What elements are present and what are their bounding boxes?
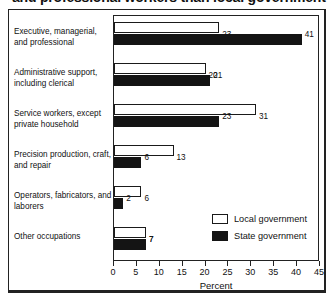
bar-local-government	[114, 63, 206, 74]
bar-group: 62	[114, 186, 320, 210]
x-axis-tick-label: 5	[133, 267, 138, 277]
x-axis-tick	[319, 261, 320, 266]
x-axis-tick-label: 30	[245, 267, 255, 277]
legend-swatch-local	[212, 214, 228, 224]
x-axis-title: Percent	[113, 280, 319, 291]
legend: Local governmentState government	[212, 211, 316, 245]
legend-label: Local government	[234, 214, 307, 224]
bar-state-government	[114, 75, 210, 86]
bar-local-government	[114, 227, 146, 238]
bar-value-label: 41	[305, 30, 314, 39]
bar-value-label: 23	[222, 112, 231, 121]
x-axis-tick	[250, 261, 251, 266]
bar-value-label: 2	[126, 194, 131, 203]
x-axis-tick-label: 10	[154, 267, 164, 277]
category-label: Service workers, except private househol…	[14, 109, 112, 130]
bar-group: 3123	[114, 104, 320, 128]
x-axis-tick-label: 15	[177, 267, 187, 277]
x-axis-tick	[273, 261, 274, 266]
legend-swatch-state	[212, 231, 228, 241]
x-axis-tick	[159, 261, 160, 266]
category-label: Precision production, craft, and repair	[14, 150, 112, 171]
x-axis-tick-label: 0	[110, 267, 115, 277]
x-axis-tick-label: 25	[222, 267, 232, 277]
category-label: Other occupations	[14, 232, 112, 243]
x-axis-tick-label: 40	[291, 267, 301, 277]
category-label-column: Executive, managerial, and professionalA…	[14, 15, 112, 261]
bar-value-label: 13	[177, 153, 186, 162]
bar-local-government	[114, 22, 219, 33]
bar-group: 2341	[114, 22, 320, 46]
x-axis-tick-label: 20	[200, 267, 210, 277]
category-label: Administrative support, including cleric…	[14, 68, 112, 89]
bar-value-label: 6	[144, 153, 149, 162]
bar-state-government	[114, 239, 146, 250]
bar-value-label: 21	[213, 71, 222, 80]
chart-area: Executive, managerial, and professionalA…	[0, 0, 334, 303]
legend-item: State government	[212, 228, 316, 243]
x-axis-tick	[182, 261, 183, 266]
x-axis-tick	[296, 261, 297, 266]
x-axis-tick	[227, 261, 228, 266]
bar-group: 136	[114, 145, 320, 169]
x-axis: Percent 051015202530354045	[113, 261, 319, 301]
x-axis-tick	[205, 261, 206, 266]
bar-value-label: 31	[259, 112, 268, 121]
bar-local-government	[114, 104, 256, 115]
bar-value-label: 6	[144, 194, 149, 203]
bar-state-government	[114, 198, 123, 209]
legend-item: Local government	[212, 211, 316, 226]
category-label: Executive, managerial, and professional	[14, 27, 112, 48]
bar-state-government	[114, 34, 302, 45]
x-axis-tick	[113, 261, 114, 266]
bar-value-label: 7	[149, 235, 154, 244]
legend-label: State government	[234, 231, 307, 241]
x-axis-tick-label: 45	[314, 267, 324, 277]
category-label: Operators, fabricators, and laborers	[14, 191, 112, 212]
x-axis-tick-label: 35	[268, 267, 278, 277]
bar-group: 2021	[114, 63, 320, 87]
x-axis-tick	[136, 261, 137, 266]
bar-state-government	[114, 116, 219, 127]
bar-state-government	[114, 157, 141, 168]
